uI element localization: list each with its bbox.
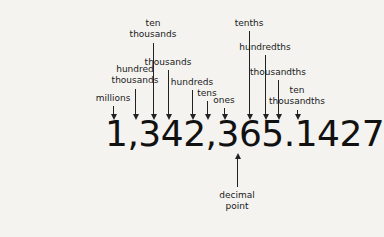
place-value-label: tenthousandths [269,85,325,107]
place-value-label: tenths [235,18,264,29]
arrow-line [265,55,266,114]
place-value-label: hundredths [239,42,291,53]
arrow-line [237,159,238,187]
example-number: 1,342,365.1427 [105,114,384,154]
arrow-line [168,70,169,114]
place-value-label: tenthousands [130,18,177,40]
arrow-line [153,43,154,114]
place-value-label: millions [96,93,131,104]
place-value-label: hundreds [171,77,213,88]
background-bleed-text [10,107,62,122]
arrow-line [192,90,193,114]
decimal-point-label: decimalpoint [219,190,254,212]
place-value-label: thousands [145,57,192,68]
arrow-line [135,89,136,114]
place-value-label: thousandths [250,67,306,78]
place-value-label: ones [213,95,234,106]
